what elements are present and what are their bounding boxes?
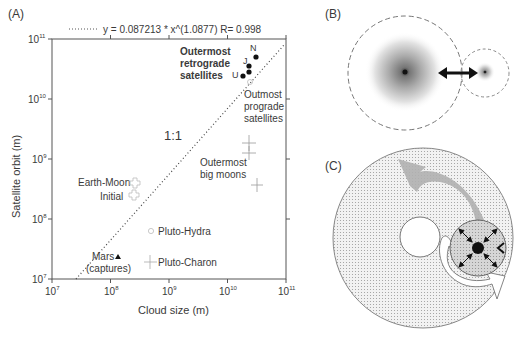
panel-a: (A) y = 0.087213 * x^(1.0877) R= 0.998 1… <box>8 7 296 316</box>
y-axis-label: Satellite orbit (m) <box>10 135 22 218</box>
small-cloud-core <box>484 71 487 74</box>
svg-text:1010: 1010 <box>219 285 237 297</box>
point-j2 <box>246 69 251 74</box>
pluto-charon-label: Pluto-Charon <box>158 257 217 268</box>
prograde-group: Outmost prograde satellites <box>244 80 284 125</box>
retrograde-group: Outermost retrograde satellites N J U <box>180 43 259 81</box>
prograde-label-3: satellites <box>244 113 283 124</box>
point-pluto-charon <box>144 255 157 269</box>
legend: y = 0.087213 * x^(1.0877) R= 0.998 <box>69 24 262 35</box>
prograde-label-1: Outmost <box>244 89 282 100</box>
central-body <box>472 242 484 254</box>
x-tick-labels: 107 108 109 1010 1011 <box>45 285 296 297</box>
prograde-label-2: prograde <box>244 101 284 112</box>
point-initial <box>129 190 139 200</box>
label-j: J <box>243 56 248 66</box>
plot-frame <box>52 39 286 279</box>
legend-text: y = 0.087213 * x^(1.0877) R= 0.998 <box>103 24 262 35</box>
y-tick-labels: 1011 1010 109 108 107 <box>28 33 47 285</box>
point-pluto-hydra <box>148 228 153 233</box>
retrograde-label-1: Outermost <box>180 46 231 57</box>
big-moons-label-1: Outermost <box>200 157 247 168</box>
earth-moon-label: Earth-Moon <box>78 177 130 188</box>
y-axis-ticks <box>48 39 290 279</box>
x-axis-label: Cloud size (m) <box>138 304 209 316</box>
panel-a-label: (A) <box>8 7 24 21</box>
label-u: U <box>232 70 239 80</box>
svg-text:108: 108 <box>32 213 47 225</box>
initial-label: Initial <box>100 191 123 202</box>
panel-b-label: (B) <box>325 7 341 21</box>
svg-text:107: 107 <box>32 273 47 285</box>
captures-label: (captures) <box>86 263 131 274</box>
svg-text:109: 109 <box>32 153 47 165</box>
svg-text:107: 107 <box>45 285 60 297</box>
svg-text:109: 109 <box>162 285 177 297</box>
big-moons-label-2: big moons <box>200 169 246 180</box>
svg-text:1011: 1011 <box>28 33 46 45</box>
point-prograde <box>248 80 253 85</box>
disk-hole <box>400 217 440 257</box>
panel-b: (B) <box>325 7 509 130</box>
panel-c-label: (C) <box>325 159 342 173</box>
point-u <box>240 73 245 78</box>
retrograde-label-2: retrograde <box>180 58 230 69</box>
large-cloud-core <box>403 70 408 75</box>
retrograde-label-3: satellites <box>180 70 223 81</box>
svg-text:108: 108 <box>104 285 119 297</box>
one-to-one-label: 1:1 <box>164 128 182 143</box>
mars-label: Mars <box>92 251 114 262</box>
point-mars <box>115 254 121 259</box>
figure-canvas: (A) y = 0.087213 * x^(1.0877) R= 0.998 1… <box>0 0 524 338</box>
panel-c: (C) <box>325 148 513 328</box>
svg-text:1011: 1011 <box>278 285 296 297</box>
label-n: N <box>250 43 257 53</box>
point-earth-moon <box>130 178 140 188</box>
point-n <box>253 54 258 59</box>
svg-text:1010: 1010 <box>28 93 46 105</box>
earth-moon-group: Earth-Moon Initial <box>78 177 140 202</box>
pluto-hydra-label: Pluto-Hydra <box>158 226 211 237</box>
